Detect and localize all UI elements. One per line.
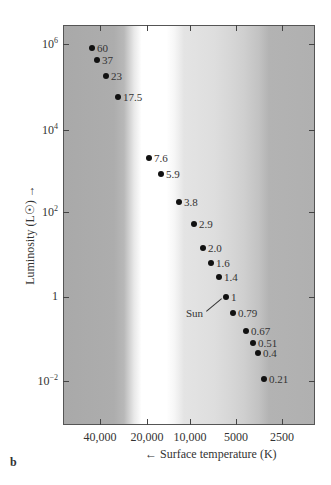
star-point xyxy=(216,274,222,280)
x-tick xyxy=(190,25,191,31)
star-mass-label: 60 xyxy=(97,42,108,54)
x-tick-label: 2500 xyxy=(270,430,294,445)
star-mass-label: 2.9 xyxy=(199,218,213,230)
star-point xyxy=(223,294,229,300)
x-tick-label: 40,000 xyxy=(84,430,117,445)
y-tick-label: 10−2 xyxy=(18,373,58,389)
x-tick xyxy=(282,419,283,425)
star-mass-label: 1 xyxy=(231,291,237,303)
star-point xyxy=(146,155,152,161)
up-arrow-icon: → xyxy=(23,185,37,197)
x-tick-label: 20,000 xyxy=(131,430,164,445)
star-point xyxy=(94,57,100,63)
y-tick xyxy=(309,44,315,45)
panel-label: b xyxy=(10,455,17,470)
star-point xyxy=(176,199,182,205)
x-tick-label: 5000 xyxy=(224,430,248,445)
star-mass-label: 1.6 xyxy=(216,257,230,269)
x-tick xyxy=(236,25,237,31)
left-arrow-icon: ← xyxy=(145,447,157,461)
star-point xyxy=(250,340,256,346)
star-mass-label: 17.5 xyxy=(123,91,142,103)
y-tick xyxy=(309,297,315,298)
y-tick xyxy=(309,130,315,131)
x-tick xyxy=(282,25,283,31)
x-tick xyxy=(100,419,101,425)
y-axis-title: Luminosity (L☉) → xyxy=(23,185,38,285)
star-mass-label: 0.4 xyxy=(263,347,277,359)
x-tick xyxy=(236,419,237,425)
y-tick xyxy=(63,297,69,298)
star-point xyxy=(261,376,267,382)
star-point xyxy=(230,310,236,316)
x-tick-label: 10,000 xyxy=(174,430,207,445)
y-axis-title-text: Luminosity (L☉) xyxy=(23,200,37,285)
y-tick xyxy=(309,381,315,382)
x-tick xyxy=(147,25,148,31)
star-mass-label: 2.0 xyxy=(208,242,222,254)
x-tick xyxy=(100,25,101,31)
y-tick xyxy=(63,212,69,213)
star-mass-label: 0.79 xyxy=(238,307,257,319)
star-point xyxy=(243,328,249,334)
star-mass-label: 5.9 xyxy=(166,168,180,180)
sun-label: Sun xyxy=(186,307,203,319)
star-mass-label: 0.21 xyxy=(269,373,288,385)
star-mass-label: 23 xyxy=(111,70,122,82)
x-axis-title: ← Surface temperature (K) xyxy=(145,447,277,462)
star-point xyxy=(103,73,109,79)
star-point xyxy=(115,94,121,100)
y-tick xyxy=(309,212,315,213)
y-tick xyxy=(63,130,69,131)
plot-area xyxy=(63,25,315,425)
y-tick xyxy=(63,44,69,45)
y-tick-label: 104 xyxy=(18,122,58,138)
star-mass-label: 3.8 xyxy=(184,196,198,208)
star-point xyxy=(191,221,197,227)
star-mass-label: 1.4 xyxy=(224,271,238,283)
star-point xyxy=(89,45,95,51)
y-tick xyxy=(63,381,69,382)
star-mass-label: 37 xyxy=(102,54,113,66)
y-tick-label: 1 xyxy=(18,289,58,304)
star-mass-label: 0.67 xyxy=(251,325,270,337)
star-point xyxy=(208,260,214,266)
star-point xyxy=(200,245,206,251)
x-tick xyxy=(190,419,191,425)
star-point xyxy=(255,350,261,356)
star-point xyxy=(158,171,164,177)
x-axis-title-text: Surface temperature (K) xyxy=(160,447,277,461)
x-tick xyxy=(147,419,148,425)
y-tick-label: 106 xyxy=(18,36,58,52)
star-mass-label: 7.6 xyxy=(154,152,168,164)
